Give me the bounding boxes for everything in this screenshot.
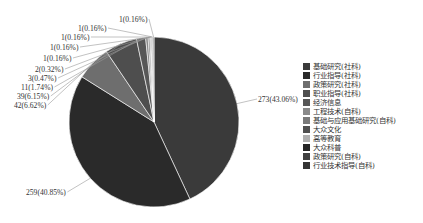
chart-legend: 基础研究(社科) 行业指导(社科) 政策研究(社科) 职业指导(社科) 经济信息… [303, 62, 396, 170]
legend-swatch [303, 63, 310, 70]
legend-swatch [303, 135, 310, 142]
slice-label: 1(0.16%) [50, 43, 79, 52]
legend-item[interactable]: 工程技术(自科) [303, 107, 396, 116]
legend-label: 职业指导(社科) [313, 89, 361, 98]
legend-label: 行业技术指导(自科) [313, 161, 375, 170]
leader-line [149, 19, 154, 37]
legend-label: 政策研究(社科) [313, 80, 361, 89]
legend-item[interactable]: 职业指导(社科) [303, 89, 396, 98]
legend-item[interactable]: 大众科普 [303, 143, 396, 152]
legend-item[interactable]: 行业技术指导(自科) [303, 161, 396, 170]
legend-label: 大众文化 [313, 125, 341, 134]
legend-swatch [303, 72, 310, 79]
leader-line [108, 28, 153, 37]
pie-slices [69, 37, 239, 207]
slice-label: 2(0.32%) [35, 65, 64, 74]
legend-item[interactable]: 政策研究(自科) [303, 152, 396, 161]
legend-swatch [303, 81, 310, 88]
slice-label: 42(6.62%) [14, 101, 47, 110]
legend-label: 行业指导(社科) [313, 71, 361, 80]
legend-item[interactable]: 基础与应用基础研究(自科) [303, 116, 396, 125]
legend-item[interactable]: 高等教育 [303, 134, 396, 143]
slice-label: 1(0.16%) [78, 24, 107, 33]
legend-item[interactable]: 政策研究(社科) [303, 80, 396, 89]
legend-item[interactable]: 大众文化 [303, 125, 396, 134]
legend-item[interactable]: 基础研究(社科) [303, 62, 396, 71]
legend-item[interactable]: 经济信息 [303, 98, 396, 107]
legend-label: 基础研究(社科) [313, 62, 361, 71]
legend-swatch [303, 99, 310, 106]
legend-label: 高等教育 [313, 134, 341, 143]
legend-swatch [303, 162, 310, 169]
slice-label: 11(1.74%) [21, 83, 53, 92]
slice-label: 3(0.47%) [28, 74, 57, 83]
slice-label: 259(40.85%) [26, 188, 66, 197]
leader-line [67, 178, 90, 192]
legend-swatch [303, 144, 310, 151]
legend-swatch [303, 90, 310, 97]
slice-label: 1(0.16%) [119, 15, 148, 24]
slice-label: 273(43.06%) [258, 95, 298, 104]
legend-swatch [303, 108, 310, 115]
slice-label: 39(6.15%) [17, 92, 50, 101]
legend-swatch [303, 126, 310, 133]
legend-label: 工程技术(自科) [313, 107, 361, 116]
legend-label: 大众科普 [313, 143, 341, 152]
legend-item[interactable]: 行业指导(社科) [303, 71, 396, 80]
legend-label: 政策研究(自科) [313, 152, 361, 161]
legend-label: 经济信息 [313, 98, 341, 107]
legend-label: 基础与应用基础研究(自科) [313, 116, 396, 125]
legend-swatch [303, 153, 310, 160]
leader-line [237, 99, 257, 104]
legend-swatch [303, 117, 310, 124]
slice-label: 1(0.16%) [61, 33, 90, 42]
slice-label: 1(0.16%) [43, 54, 72, 63]
